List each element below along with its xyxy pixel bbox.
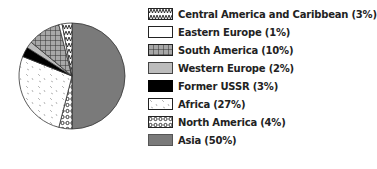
legend-item-africa: Africa (27%) <box>148 95 377 113</box>
legend-item-central-america: Central America and Caribbean (3%) <box>148 5 377 23</box>
legend-label: North America (4%) <box>178 117 286 128</box>
dash-pattern-swatch-icon <box>148 98 173 110</box>
black-swatch-icon <box>148 80 173 92</box>
legend-label: Central America and Caribbean (3%) <box>178 9 377 20</box>
pie-chart <box>0 0 140 169</box>
legend-item-north-america: North America (4%) <box>148 113 377 131</box>
grid-pattern-swatch-icon <box>148 44 173 56</box>
pie-slice-asia <box>72 23 125 129</box>
legend-label: Western Europe (2%) <box>178 63 294 74</box>
legend: Central America and Caribbean (3%) Easte… <box>148 5 377 149</box>
legend-item-former-ussr: Former USSR (3%) <box>148 77 377 95</box>
legend-item-eastern-europe: Eastern Europe (1%) <box>148 23 377 41</box>
legend-item-western-europe: Western Europe (2%) <box>148 59 377 77</box>
wave-pattern-swatch-icon <box>148 8 173 20</box>
legend-item-asia: Asia (50%) <box>148 131 377 149</box>
lightgray-swatch-icon <box>148 62 173 74</box>
legend-item-south-america: South America (10%) <box>148 41 377 59</box>
circle-pattern-swatch-icon <box>148 116 173 128</box>
white-swatch-icon <box>148 26 173 38</box>
legend-label: Former USSR (3%) <box>178 81 278 92</box>
legend-label: Africa (27%) <box>178 99 245 110</box>
legend-label: South America (10%) <box>178 45 293 56</box>
darkgray-swatch-icon <box>148 134 173 146</box>
legend-label: Asia (50%) <box>178 135 236 146</box>
legend-label: Eastern Europe (1%) <box>178 27 290 38</box>
